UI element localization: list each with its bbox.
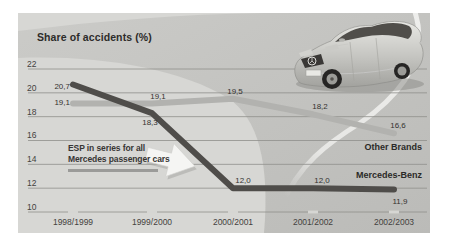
mercedes-point-label-5: 11,9 xyxy=(386,197,414,206)
series-label-other-brands: Other Brands xyxy=(330,142,422,152)
other-point-label-2: 19,1 xyxy=(144,92,172,101)
mercedes-point-label-1: 20,7 xyxy=(44,82,70,91)
x-label-2001-2002: 2001/2002 xyxy=(281,217,345,227)
x-label-1998-1999: 1998/1999 xyxy=(41,217,105,227)
esp-annotation: ESP in series for all Mercedes passenger… xyxy=(68,143,170,165)
y-tick-18: 18 xyxy=(27,107,47,117)
mercedes-point-label-2: 18,3 xyxy=(136,118,164,127)
accident-statistics-figure: Share of accidents (%) 22 20 18 16 14 12… xyxy=(0,0,450,243)
esp-annotation-line2: Mercedes passenger cars xyxy=(68,154,170,165)
y-tick-12: 12 xyxy=(27,178,47,188)
esp-annotation-underline xyxy=(68,169,158,172)
other-point-label-3: 19,5 xyxy=(221,87,249,96)
series-label-mercedes-benz: Mercedes-Benz xyxy=(330,170,422,180)
x-label-2000-2001: 2000/2001 xyxy=(201,217,265,227)
chart-panel: Share of accidents (%) 22 20 18 16 14 12… xyxy=(18,13,430,233)
x-label-1999-2000: 1999/2000 xyxy=(120,217,184,227)
y-tick-10: 10 xyxy=(27,202,47,212)
other-point-label-1: 19,1 xyxy=(44,98,70,107)
x-label-2002-2003: 2002/2003 xyxy=(362,217,426,227)
y-tick-22: 22 xyxy=(27,59,47,69)
y-tick-14: 14 xyxy=(27,154,47,164)
mercedes-point-label-3: 12,0 xyxy=(229,176,257,185)
chart-title: Share of accidents (%) xyxy=(37,31,152,43)
y-tick-16: 16 xyxy=(27,130,47,140)
esp-annotation-line1: ESP in series for all xyxy=(68,143,170,154)
other-point-label-4: 18,2 xyxy=(306,102,334,111)
other-point-label-5: 16,6 xyxy=(384,121,412,130)
chart-plot-area xyxy=(18,13,430,233)
